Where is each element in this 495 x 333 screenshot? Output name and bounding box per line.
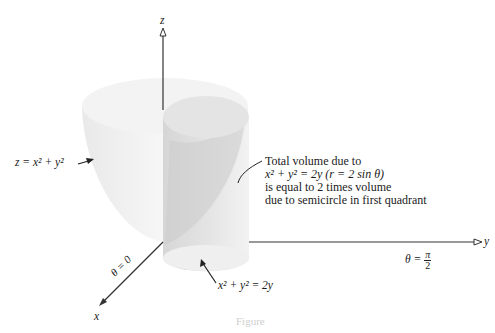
volume-note: Total volume due to x² + y² = 2y (r = 2 … [265, 155, 427, 207]
z-axis-label: z [160, 14, 164, 27]
y-axis-label: y [484, 235, 489, 248]
fraction-denominator: 2 [424, 261, 431, 271]
cylinder-surface [163, 96, 249, 271]
x-axis-label: x [94, 310, 99, 323]
figure-caption: Figure [236, 315, 265, 328]
paraboloid-pointer-arrow [78, 158, 94, 164]
note-line-4: due to semicircle in first quadrant [265, 194, 427, 207]
y-axis [249, 239, 482, 245]
pi-over-2-fraction: π 2 [424, 250, 431, 271]
paraboloid-equation-label: z = x² + y² [15, 156, 64, 169]
base-circle-equation-label: x² + y² = 2y [218, 279, 273, 292]
theta-pi2-prefix: θ = [405, 253, 421, 265]
x-axis [99, 242, 163, 306]
theta-pi-over-2-label: θ = π 2 [405, 250, 431, 271]
